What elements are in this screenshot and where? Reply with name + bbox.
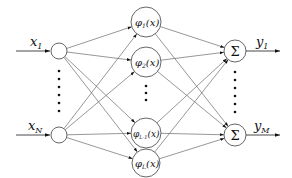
input-label-xN: xN — [28, 118, 43, 135]
edge-hidden2-output1 — [161, 133, 224, 135]
edge-hidden0-output0 — [160, 27, 224, 48]
output-node-sumM: Σ — [224, 124, 246, 146]
output-node-sum1: Σ — [224, 40, 246, 62]
output-label-y1: y1 — [255, 34, 268, 51]
input-node-x1 — [51, 43, 67, 59]
edge-input1-hidden1 — [65, 72, 134, 130]
hidden-node-phi2: φ2(x) — [131, 47, 161, 77]
svg-text:φ2(x): φ2(x) — [135, 57, 159, 69]
svg-text:φ1(x): φ1(x) — [135, 17, 159, 29]
edge-input0-hidden3 — [64, 57, 137, 152]
edge-hidden0-output1 — [155, 34, 228, 127]
svg-text:φL-1(x): φL-1(x) — [133, 129, 160, 140]
edge-input0-hidden1 — [67, 52, 131, 60]
edge-hidden3-output0 — [155, 60, 229, 152]
output-label-yM: yM — [253, 118, 270, 135]
input-node-xN — [51, 127, 67, 143]
edge-hidden3-output1 — [159, 138, 224, 159]
hidden-node-phiL: φL(x) — [132, 149, 160, 177]
output-ellipsis-dots — [234, 71, 237, 114]
svg-text:φL(x): φL(x) — [135, 158, 160, 170]
edge-input1-hidden2 — [67, 133, 131, 135]
edge-hidden2-output0 — [157, 59, 227, 123]
edge-input0-hidden2 — [65, 57, 135, 123]
svg-text:Σ: Σ — [230, 128, 239, 143]
edge-input1-hidden3 — [67, 138, 133, 159]
input-ellipsis-dots — [58, 70, 61, 113]
hidden-ellipsis-dots — [145, 85, 148, 102]
svg-text:Σ: Σ — [230, 44, 239, 59]
hidden-node-phiL-1: φL-1(x) — [131, 118, 161, 148]
edge-input0-hidden0 — [67, 27, 132, 49]
hidden-node-phi1: φ1(x) — [131, 7, 161, 37]
rbf-network-diagram: x1 xN φ1(x) φ2(x) φL-1(x) φL(x) — [0, 0, 292, 178]
input-label-x1: x1 — [30, 34, 42, 51]
